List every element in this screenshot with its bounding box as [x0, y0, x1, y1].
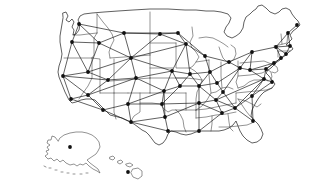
alaska-inset-group [44, 132, 100, 174]
state-line-oh-pa [236, 61, 238, 88]
network-edge [63, 76, 108, 80]
state-line-nm-tx [131, 93, 140, 121]
network-edge [99, 43, 131, 58]
network-node: Los Angeles [69, 97, 73, 101]
network-edge [235, 79, 264, 108]
network-edge [178, 33, 205, 56]
network-node: Cleveland [238, 66, 242, 70]
network-node: Billings [122, 31, 126, 35]
hawaii-molokai-maui [126, 163, 133, 167]
state-line-ga-fl [219, 123, 252, 127]
network-node: El Paso [129, 120, 133, 124]
network-node: Minneapolis [184, 42, 188, 46]
hawaii-oahu [118, 160, 123, 164]
state-line-ia-mo [176, 78, 202, 80]
network-node: Buffalo [250, 50, 254, 54]
state-line-mi-upper [199, 37, 228, 47]
network-edge [199, 83, 217, 86]
network-edge [162, 103, 199, 104]
network-edge [180, 74, 190, 86]
network-node: Nashville [214, 98, 218, 102]
network-edge [186, 44, 190, 74]
network-edge [63, 72, 88, 76]
network-node: Memphis [197, 101, 201, 105]
network-node: Philadelphia [272, 61, 276, 65]
network-node: Charlotte [250, 94, 254, 98]
network-node: Oklahoma City [160, 102, 164, 106]
network-node: Kansas City [178, 84, 182, 88]
network-edge [79, 24, 124, 33]
network-node: Jacksonville [251, 119, 255, 123]
state-line-mi-lower [219, 45, 236, 62]
network-node: Denver [134, 76, 138, 80]
network-node: Anchorage [68, 145, 72, 149]
network-edge [99, 33, 124, 43]
network-node: Dallas [163, 115, 167, 119]
network-edge [72, 42, 99, 43]
network-edge [252, 47, 276, 52]
network-edge [235, 96, 252, 108]
network-node: Boise [86, 70, 90, 74]
hawaii-inset-group [110, 156, 142, 179]
contiguous-us-outline [58, 5, 300, 145]
network-edge [103, 104, 128, 110]
network-edge [190, 72, 210, 74]
network-edge [103, 110, 131, 122]
network-edge [71, 99, 103, 110]
network-edge [136, 71, 172, 78]
state-line-tn-south [196, 112, 236, 118]
network-edge [222, 108, 235, 113]
network-node: Baltimore [264, 67, 268, 71]
network-node: San Francisco [61, 74, 65, 78]
network-edge [172, 44, 186, 71]
hawaii-kauai [110, 156, 115, 160]
network-edge [210, 62, 229, 72]
us-network-map-figure: United States network topology map Outli… [0, 0, 328, 191]
network-edge [124, 33, 131, 58]
network-node: Spokane [97, 41, 101, 45]
network-edge [172, 71, 190, 74]
network-node: Pittsburgh [248, 68, 252, 72]
network-edge [199, 113, 222, 131]
network-edge [199, 72, 210, 86]
network-node: Minot [158, 32, 162, 36]
network-node: Phoenix [101, 108, 105, 112]
network-edge [131, 122, 168, 131]
network-edge [88, 78, 136, 95]
state-line-tx-la [176, 110, 186, 132]
network-node: Omaha [170, 69, 174, 73]
network-node: Des Moines [188, 72, 192, 76]
network-node: Wichita [162, 89, 166, 93]
network-node: Las Vegas [86, 93, 90, 97]
network-edge [63, 42, 72, 76]
state-line-pa-south [238, 70, 268, 76]
alaska-outline [45, 132, 100, 173]
network-node: Portland [70, 40, 74, 44]
network-node: Honolulu [126, 170, 130, 174]
network-node: Atlanta [233, 106, 237, 110]
network-node: New Orleans [197, 129, 201, 133]
network-edge [199, 86, 216, 100]
network-node: Norfolk [270, 80, 274, 84]
network-edge [172, 71, 180, 86]
state-line-il-in [209, 60, 211, 93]
network-node: Milwaukee [203, 54, 207, 58]
network-edge [235, 108, 253, 121]
network-node: Albany [274, 45, 278, 49]
state-line-md-de [268, 70, 272, 80]
network-edge [131, 117, 165, 122]
network-node: Albuquerque [126, 102, 130, 106]
network-node: Casper [129, 56, 133, 60]
network-node: Houston [166, 129, 170, 133]
network-edge [131, 58, 172, 71]
contiguous-us-outline-group [58, 5, 300, 145]
network-node: Seattle [77, 22, 81, 26]
network-edge [131, 58, 136, 78]
network-node: Salt Lake City [106, 78, 110, 82]
network-edge [199, 100, 216, 103]
hawaii-big-island [131, 168, 142, 179]
network-edge [205, 56, 229, 62]
network-nodes-group: SeattlePortlandSpokaneBillingsMinotMinne… [61, 22, 299, 174]
network-node: Boston [288, 44, 292, 48]
network-edge [276, 46, 290, 47]
